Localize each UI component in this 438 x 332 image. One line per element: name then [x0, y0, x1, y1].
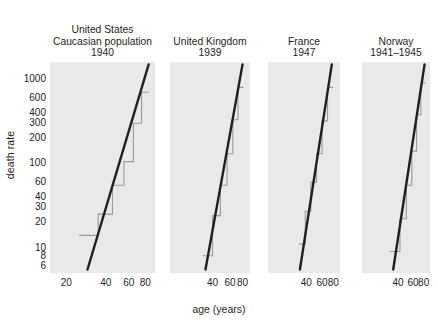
y-tick-label: 60 — [16, 177, 46, 187]
x-axis-label: age (years) — [0, 303, 438, 315]
fit-line — [393, 64, 424, 269]
panel-france: France1947406080 — [268, 62, 340, 273]
panel-united-states: United StatesCaucasian population1940204… — [50, 62, 155, 273]
x-tick-label: 40 — [301, 278, 312, 288]
fit-line — [300, 64, 332, 269]
x-tick-label: 40 — [100, 278, 111, 288]
y-tick-label: 40 — [16, 192, 46, 202]
y-tick-label: 6 — [16, 261, 46, 271]
fit-line — [88, 64, 149, 269]
x-tick-label: 60 — [225, 278, 236, 288]
y-tick-label: 200 — [16, 133, 46, 143]
y-tick-label: 1000 — [16, 74, 46, 84]
panel-title-line: United States — [24, 24, 181, 36]
x-tick-label: 60 — [408, 278, 419, 288]
panel-title-line: Norway — [336, 36, 438, 48]
x-tick-label: 80 — [418, 278, 429, 288]
panel-plot — [268, 62, 340, 273]
panel-plot — [362, 62, 430, 273]
mortality-figure: death rate 10006004003002001006040302010… — [0, 0, 438, 332]
y-tick-label: 30 — [16, 202, 46, 212]
x-axis-tick-labels: 406080 — [332, 278, 438, 294]
panel-title: Norway1941–1945 — [336, 36, 438, 62]
y-tick-label: 100 — [16, 158, 46, 168]
panel-norway: Norway1941–1945406080 — [362, 62, 430, 273]
x-tick-label: 40 — [207, 278, 218, 288]
y-tick-label: 600 — [16, 93, 46, 103]
x-tick-label: 20 — [61, 278, 72, 288]
x-tick-label: 60 — [317, 278, 328, 288]
step-series — [79, 92, 149, 235]
fit-line — [205, 64, 242, 269]
panel-title-line: 1941–1945 — [336, 47, 438, 59]
y-tick-label: 20 — [16, 217, 46, 227]
panel-united-kingdom: United Kingdom1939406080 — [170, 62, 250, 273]
y-tick-label: 400 — [16, 108, 46, 118]
panel-plot — [50, 62, 155, 273]
x-tick-label: 40 — [393, 278, 404, 288]
y-tick-label: 8 — [16, 251, 46, 261]
x-tick-label: 60 — [123, 278, 134, 288]
panel-plot — [170, 62, 250, 273]
y-tick-label: 300 — [16, 118, 46, 128]
